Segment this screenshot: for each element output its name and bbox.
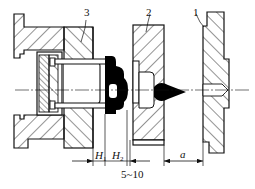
mold-cross-section-diagram: 3 2 1 H 1 H 2 5~10 a — [0, 0, 255, 189]
plate-3 — [64, 27, 100, 148]
dim-h2-subscript: 2 — [120, 155, 124, 163]
dim-gap-label: 5~10 — [121, 168, 144, 180]
label-part-1: 1 — [193, 6, 199, 18]
plate-1 — [203, 12, 229, 153]
dim-a-label: a — [180, 148, 186, 160]
label-part-2: 2 — [146, 6, 152, 18]
label-part-3: 3 — [84, 6, 90, 18]
molded-part — [105, 56, 128, 114]
sprue — [154, 83, 186, 101]
dim-h1-subscript: 1 — [103, 155, 107, 163]
clamp-plate-bottom — [14, 115, 64, 148]
